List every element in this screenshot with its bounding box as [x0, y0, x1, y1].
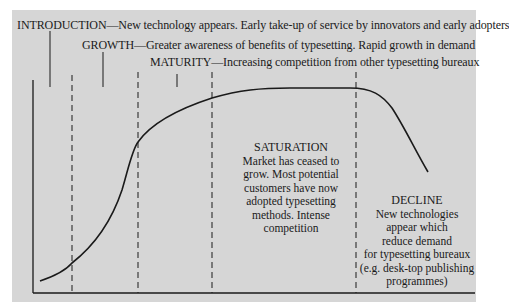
decline-line: New technologies [356, 208, 478, 222]
decline-heading: DECLINE [356, 194, 478, 208]
saturation-line: adopted typesetting [236, 195, 346, 209]
saturation-line: customers have now [236, 182, 346, 196]
decline-block: DECLINE New technologies appear which re… [356, 194, 478, 289]
growth-label: GROWTH—Greater awareness of benefits of … [82, 38, 475, 52]
decline-line: programmes) [356, 275, 478, 289]
decline-line: (e.g. desk-top publishing [356, 262, 478, 276]
saturation-block: SATURATION Market has ceased to grow. Mo… [236, 141, 346, 236]
maturity-label: MATURITY—Increasing competition from oth… [150, 55, 479, 69]
saturation-line: methods. Intense [236, 209, 346, 223]
introduction-label: INTRODUCTION—New technology appears. Ear… [17, 18, 509, 32]
decline-line: reduce demand [356, 235, 478, 249]
decline-line: appear which [356, 221, 478, 235]
saturation-line: grow. Most potential [236, 168, 346, 182]
saturation-line: competition [236, 222, 346, 236]
saturation-line: Market has ceased to [236, 155, 346, 169]
saturation-heading: SATURATION [236, 141, 346, 155]
decline-line: for typesetting bureaux [356, 248, 478, 262]
